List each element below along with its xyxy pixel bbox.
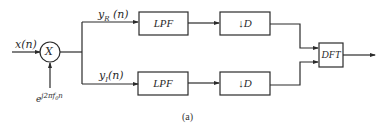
signal-label-imag: yI(n): [99, 70, 124, 84]
carrier-exp: j2πf: [41, 92, 55, 100]
dec-to-dft-bottom: [270, 62, 318, 85]
input-label: x(n): [15, 39, 37, 50]
carrier-label: ej2πf0n: [36, 93, 63, 104]
dft-label: DFT: [319, 50, 343, 60]
figure-caption: (a): [182, 112, 193, 122]
decimator-label-bottom: ↓D: [220, 78, 270, 89]
signal-real-tail: (n): [110, 8, 129, 21]
carrier-tail: n: [58, 92, 63, 100]
signal-label-real: yR (n): [98, 9, 129, 23]
signal-imag-tail: (n): [108, 69, 124, 82]
lpf-label-bottom: LPF: [138, 78, 188, 89]
decimator-label-top: ↓D: [220, 18, 270, 29]
dec-to-dft-top: [270, 24, 318, 48]
mixer-symbol: X: [45, 46, 53, 57]
lpf-label-top: LPF: [139, 18, 188, 29]
